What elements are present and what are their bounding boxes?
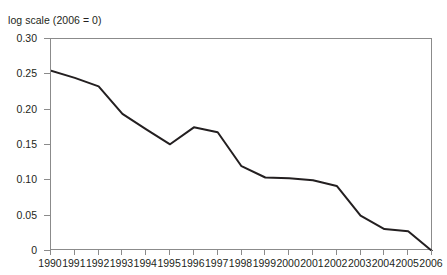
x-axis-tick (383, 250, 384, 255)
x-axis-tick (98, 250, 99, 255)
x-axis-tick-label: 2004 (372, 257, 395, 269)
x-axis-tick (193, 250, 194, 255)
y-axis-tick (44, 144, 50, 145)
x-axis-tick (217, 250, 218, 255)
x-axis-tick-label: 1993 (110, 257, 133, 269)
y-axis-tick (44, 38, 50, 39)
y-axis-tick (44, 179, 50, 180)
x-axis-tick (74, 250, 75, 255)
y-axis-tick-label: 0.30 (17, 32, 37, 44)
x-axis-tick-label: 1996 (181, 257, 204, 269)
x-axis-tick (169, 250, 170, 255)
data-line (51, 71, 432, 251)
x-axis-tick (360, 250, 361, 255)
x-axis-tick (288, 250, 289, 255)
x-axis-tick (145, 250, 146, 255)
x-axis-tick-label: 1997 (205, 257, 228, 269)
x-axis-tick-label: 1999 (253, 257, 276, 269)
x-axis-tick (121, 250, 122, 255)
line-series-svg (51, 39, 433, 251)
x-axis-tick-label: 1992 (86, 257, 109, 269)
x-axis-tick-label: 1995 (157, 257, 180, 269)
y-axis-tick-label: 0.05 (17, 209, 37, 221)
x-axis-tick (336, 250, 337, 255)
x-axis-tick-label: 2001 (300, 257, 323, 269)
chart-screenshot: log scale (2006 = 0) 0.300.250.200.150.1… (0, 0, 447, 275)
y-axis-tick-label: 0 (31, 244, 37, 256)
y-axis-tick-label: 0.25 (17, 67, 37, 79)
x-axis-tick (312, 250, 313, 255)
x-axis-tick-label: 2002 (324, 257, 347, 269)
y-axis-tick-label: 0.15 (17, 138, 37, 150)
cropped-title-remnant (0, 0, 447, 6)
x-axis-tick-label: 1990 (38, 257, 61, 269)
x-axis-tick-label: 1998 (229, 257, 252, 269)
y-axis-tick (44, 215, 50, 216)
x-axis-tick-label: 1994 (134, 257, 157, 269)
x-axis-tick (407, 250, 408, 255)
x-axis-tick (50, 250, 51, 255)
x-axis-tick-label: 2000 (276, 257, 299, 269)
x-axis-tick-label: 2005 (396, 257, 419, 269)
x-axis-tick-label: 2006 (419, 257, 442, 269)
x-axis-tick (241, 250, 242, 255)
y-axis-tick-label: 0.10 (17, 173, 37, 185)
x-axis-tick-label: 2003 (348, 257, 371, 269)
y-axis-tick-label: 0.20 (17, 103, 37, 115)
x-axis-tick (264, 250, 265, 255)
y-axis-tick (44, 109, 50, 110)
plot-area (50, 38, 432, 250)
x-axis-tick (431, 250, 432, 255)
y-axis-tick (44, 73, 50, 74)
y-axis: 0.300.250.200.150.100.050 (0, 0, 46, 275)
x-axis-tick-label: 1991 (62, 257, 85, 269)
